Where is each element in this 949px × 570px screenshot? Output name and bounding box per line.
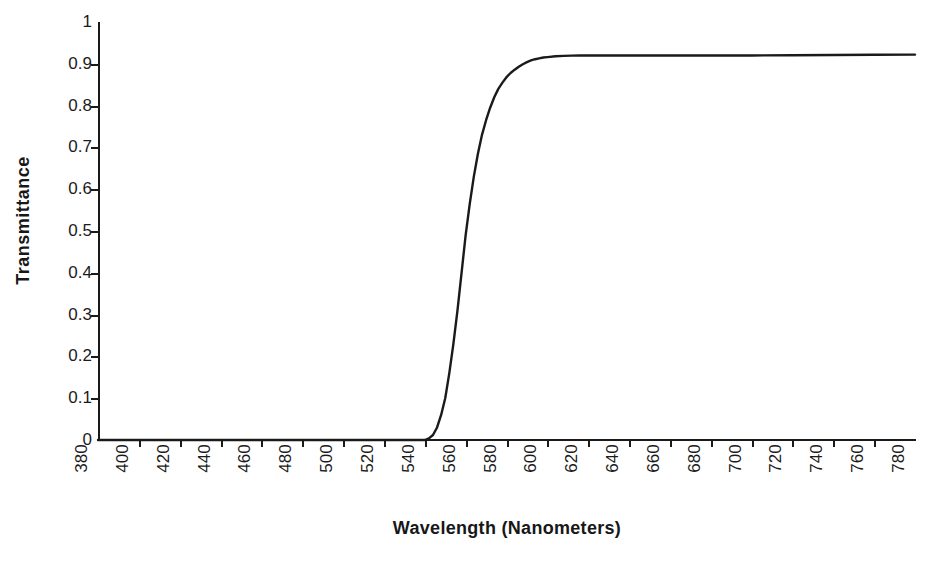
x-tick-mark <box>670 439 672 447</box>
x-tick-label-text: 540 <box>399 444 416 472</box>
y-tick-label: 0.4 <box>44 264 92 281</box>
y-tick-label: 0.1 <box>44 389 92 406</box>
x-tick-label-text: 420 <box>154 444 171 472</box>
y-tick-mark <box>91 147 99 149</box>
x-tick-mark <box>792 439 794 447</box>
x-tick-label-text: 680 <box>685 444 702 472</box>
y-tick-label: 0.8 <box>44 97 92 114</box>
y-tick-label: 0.3 <box>44 306 92 323</box>
y-tick-mark <box>91 64 99 66</box>
x-tick-label-text: 400 <box>114 444 131 472</box>
plot-area <box>98 22 915 440</box>
x-tick-mark <box>588 439 590 447</box>
x-tick-label-text: 480 <box>277 444 294 472</box>
x-tick-mark <box>425 439 427 447</box>
transmittance-curve <box>98 22 915 440</box>
x-tick-label-text: 440 <box>195 444 212 472</box>
x-tick-label-text: 580 <box>481 444 498 472</box>
y-axis-title: Transmittance <box>0 0 46 440</box>
x-axis-tick-labels: 3804004204404604805005205405605806006206… <box>98 447 918 509</box>
x-tick-mark <box>547 439 549 447</box>
x-tick-label-text: 760 <box>849 444 866 472</box>
y-tick-mark <box>91 189 99 191</box>
y-tick-mark <box>91 106 99 108</box>
x-tick-label-text: 560 <box>440 444 457 472</box>
x-axis-title: Wavelength (Nanometers) <box>98 518 916 539</box>
x-tick-label-text: 780 <box>890 444 907 472</box>
x-tick-mark <box>752 439 754 447</box>
x-tick-mark <box>139 439 141 447</box>
y-tick-label: 0.5 <box>44 222 92 239</box>
y-tick-label: 0.2 <box>44 347 92 364</box>
x-tick-label-text: 720 <box>767 444 784 472</box>
x-tick-label-text: 460 <box>236 444 253 472</box>
y-tick-mark <box>91 356 99 358</box>
x-tick-label-text: 380 <box>73 444 90 472</box>
x-tick-label-text: 520 <box>359 444 376 472</box>
x-tick-label-text: 660 <box>645 444 662 472</box>
x-tick-mark <box>384 439 386 447</box>
y-tick-label: 0.6 <box>44 180 92 197</box>
x-tick-label-text: 740 <box>808 444 825 472</box>
x-tick-mark <box>302 439 304 447</box>
x-tick-label-text: 500 <box>318 444 335 472</box>
x-tick-label: 780 <box>884 447 946 469</box>
x-tick-mark <box>629 439 631 447</box>
x-tick-mark <box>507 439 509 447</box>
y-tick-label: 1 <box>44 13 92 30</box>
x-tick-mark <box>180 439 182 447</box>
y-axis-title-label: Transmittance <box>13 156 34 285</box>
x-tick-mark <box>343 439 345 447</box>
transmittance-chart: Transmittance 00.10.20.30.40.50.60.70.80… <box>0 0 949 570</box>
y-tick-label: 0.9 <box>44 55 92 72</box>
y-tick-mark <box>91 398 99 400</box>
y-tick-mark <box>91 315 99 317</box>
x-tick-mark <box>833 439 835 447</box>
x-tick-mark <box>261 439 263 447</box>
x-tick-mark <box>874 439 876 447</box>
y-tick-label: 0.7 <box>44 138 92 155</box>
x-tick-label-text: 700 <box>726 444 743 472</box>
y-axis-tick-labels: 00.10.20.30.40.50.60.70.80.91 <box>44 0 92 460</box>
y-tick-mark <box>91 231 99 233</box>
x-tick-mark <box>221 439 223 447</box>
x-tick-label-text: 640 <box>604 444 621 472</box>
x-tick-label-text: 620 <box>563 444 580 472</box>
x-tick-mark <box>711 439 713 447</box>
x-tick-mark <box>466 439 468 447</box>
y-tick-mark <box>91 273 99 275</box>
x-tick-label-text: 600 <box>522 444 539 472</box>
